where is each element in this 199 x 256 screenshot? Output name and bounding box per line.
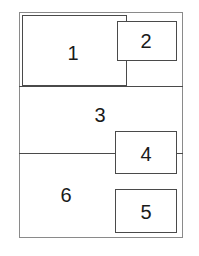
region-5-label: 5 (140, 202, 151, 222)
region-3-bottom-divider (19, 153, 115, 154)
region-3-top-divider (19, 86, 183, 87)
region-2-label: 2 (140, 31, 151, 51)
region-3-bottom-divider-right (176, 153, 183, 154)
region-4-label: 4 (140, 144, 151, 164)
diagram: 1 2 3 4 5 6 (0, 0, 199, 256)
region-1-label: 1 (67, 43, 78, 63)
region-3-label: 3 (94, 105, 105, 125)
region-6-label: 6 (60, 185, 71, 205)
